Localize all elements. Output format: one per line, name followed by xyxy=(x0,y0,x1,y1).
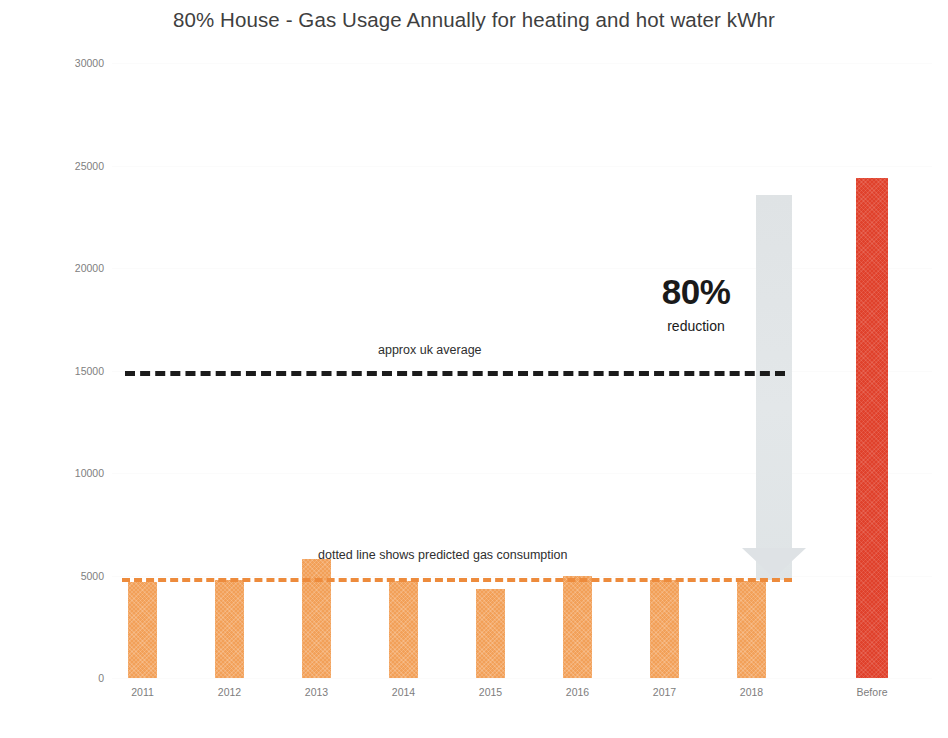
bar-2016[interactable] xyxy=(563,576,592,679)
uk-average-label: approx uk average xyxy=(378,343,482,357)
reduction-percent-label: 80% xyxy=(662,272,731,312)
y-tick-30000: 30000 xyxy=(48,57,104,69)
gridline-25000 xyxy=(112,166,932,167)
y-axis: 0 5000 10000 15000 20000 25000 30000 xyxy=(48,63,104,678)
bar-2013[interactable] xyxy=(302,559,331,678)
x-tick-2016: 2016 xyxy=(566,686,589,698)
y-tick-5000: 5000 xyxy=(48,570,104,582)
bar-2017[interactable] xyxy=(650,580,679,678)
x-tick-2018: 2018 xyxy=(740,686,763,698)
gridline-0 xyxy=(112,678,932,679)
bar-2012[interactable] xyxy=(215,580,244,678)
gridline-5000 xyxy=(112,576,932,577)
y-tick-0: 0 xyxy=(48,672,104,684)
y-tick-25000: 25000 xyxy=(48,160,104,172)
x-tick-before: Before xyxy=(857,686,888,698)
gas-usage-bar-chart: 80% House - Gas Usage Annually for heati… xyxy=(0,0,948,738)
reduction-arrow-shaft xyxy=(756,195,792,580)
x-tick-2011: 2011 xyxy=(131,686,154,698)
reduction-subtext-label: reduction xyxy=(667,318,725,334)
bar-2018[interactable] xyxy=(737,581,766,678)
gridline-20000 xyxy=(112,268,932,269)
predicted-consumption-reference-line xyxy=(122,578,792,582)
x-tick-2015: 2015 xyxy=(479,686,502,698)
bar-2011[interactable] xyxy=(128,582,157,678)
reduction-arrow-head xyxy=(742,548,806,578)
chart-title: 80% House - Gas Usage Annually for heati… xyxy=(0,8,948,32)
y-tick-20000: 20000 xyxy=(48,262,104,274)
y-tick-15000: 15000 xyxy=(48,365,104,377)
plot-area xyxy=(112,63,932,678)
gridline-10000 xyxy=(112,473,932,474)
predicted-consumption-label: dotted line shows predicted gas consumpt… xyxy=(318,548,567,562)
bar-2015[interactable] xyxy=(476,589,505,678)
x-tick-2014: 2014 xyxy=(392,686,415,698)
x-tick-2013: 2013 xyxy=(305,686,328,698)
uk-average-reference-line xyxy=(125,371,785,376)
bar-2014[interactable] xyxy=(389,581,418,678)
y-tick-10000: 10000 xyxy=(48,467,104,479)
x-tick-2017: 2017 xyxy=(653,686,676,698)
gridline-30000 xyxy=(112,63,932,64)
x-tick-2012: 2012 xyxy=(218,686,241,698)
bar-before[interactable] xyxy=(856,178,888,678)
